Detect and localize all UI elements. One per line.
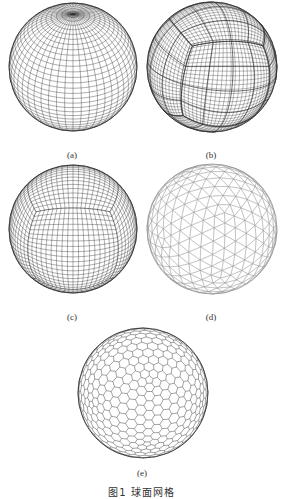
panel-label-d: (d): [191, 312, 231, 322]
hexagonal-sphere: [76, 326, 210, 460]
sphere-panel-a: [6, 0, 140, 134]
panel-label-c: (c): [52, 312, 92, 322]
panel-label-b: (b): [191, 150, 231, 160]
icosahedral-sphere: [145, 162, 279, 296]
panel-label-e: (e): [122, 468, 162, 478]
sphere-panel-c: [6, 162, 140, 296]
cubed-sphere: [6, 162, 140, 296]
panel-label-a: (a): [52, 150, 92, 160]
figure-caption: 图1 球面网格: [0, 484, 283, 499]
lat-lon-sphere: [6, 0, 140, 134]
sphere-panel-d: [145, 162, 279, 296]
sphere-panel-e: [76, 326, 210, 460]
overlap-cubed-sphere: [145, 0, 279, 134]
sphere-panel-b: [145, 0, 279, 134]
